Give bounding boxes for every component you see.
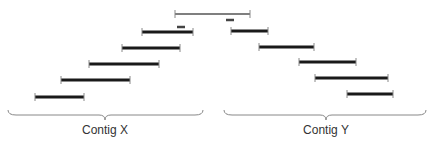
read-bar: [315, 74, 388, 82]
contig-y-reads: [231, 27, 393, 98]
reference-read: [175, 10, 250, 18]
contig-y-label: Contig Y: [303, 123, 349, 137]
contig-x-reads: [35, 28, 193, 101]
contig-assembly-diagram: [0, 0, 429, 142]
reference-bar: [175, 10, 250, 18]
read-bar: [347, 90, 393, 98]
read-bar: [61, 76, 130, 84]
read-bar: [142, 28, 193, 36]
contig-y-brace: [224, 110, 426, 120]
read-bar: [259, 43, 314, 51]
contig-braces: [8, 110, 426, 120]
read-bar: [122, 44, 180, 52]
read-bar: [35, 93, 84, 101]
read-bar: [231, 27, 268, 35]
overlap-markers: [177, 20, 234, 27]
contig-x-brace: [8, 110, 203, 120]
read-bar: [299, 58, 356, 66]
read-bar: [89, 60, 159, 68]
contig-x-label: Contig X: [82, 123, 128, 137]
